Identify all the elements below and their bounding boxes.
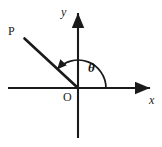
diagram-canvas	[0, 0, 162, 147]
x-axis-label: x	[149, 94, 154, 106]
origin-label: O	[63, 91, 72, 103]
terminal-ray-op	[25, 39, 79, 89]
angle-theta-label: θ	[88, 61, 95, 74]
point-p-label: P	[8, 25, 15, 37]
y-axis-label: y	[61, 6, 66, 18]
angle-diagram-figure: y x P O θ	[0, 0, 162, 147]
